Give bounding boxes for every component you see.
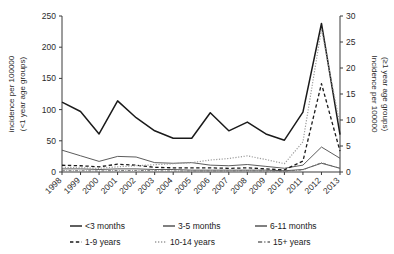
right-axis-tick-label: 30 bbox=[346, 11, 356, 21]
chart-figure: 050100150200250incidence per 100000(<1 y… bbox=[0, 0, 394, 254]
x-axis-tick-label: 2010 bbox=[265, 175, 286, 196]
legend-label: 1-9 years bbox=[85, 237, 120, 247]
right-axis-tick-label: 10 bbox=[346, 115, 356, 125]
series-line bbox=[62, 23, 340, 140]
left-axis-title: incidence per 100000 bbox=[7, 55, 16, 132]
legend-label: 15+ years bbox=[273, 237, 311, 247]
x-axis-tick-label: 2002 bbox=[117, 175, 138, 196]
series-line bbox=[62, 163, 340, 170]
left-axis-tick-label: 100 bbox=[42, 105, 56, 115]
legend-label: 10-14 years bbox=[170, 237, 215, 247]
x-axis-tick-label: 2012 bbox=[302, 175, 323, 196]
x-axis-tick-label: 2004 bbox=[154, 175, 175, 196]
legend-label: 6-11 months bbox=[270, 221, 317, 231]
x-axis-tick-label: 2009 bbox=[247, 175, 268, 196]
right-axis-tick-label: 0 bbox=[346, 167, 351, 177]
right-axis-tick-label: 15 bbox=[346, 89, 356, 99]
x-axis-tick-label: 2007 bbox=[210, 175, 231, 196]
chart-legend: <3 months3-5 months6-11 months1-9 years1… bbox=[70, 221, 317, 247]
left-axis-tick-label: 150 bbox=[42, 73, 56, 83]
left-axis-tick-label: 50 bbox=[47, 136, 57, 146]
right-axis-tick-label: 5 bbox=[346, 141, 351, 151]
right-axis-title: Incidence per 100000 bbox=[370, 56, 379, 134]
legend-label: 3-5 months bbox=[178, 221, 221, 231]
series-line bbox=[62, 29, 340, 168]
x-axis-tick-label: 2001 bbox=[99, 175, 120, 196]
x-axis-tick-label: 1999 bbox=[61, 175, 82, 196]
right-axis-tick-label: 25 bbox=[346, 37, 356, 47]
x-axis-tick-label: 2005 bbox=[173, 175, 194, 196]
legend-label: <3 months bbox=[85, 221, 125, 231]
incidence-line-chart: 050100150200250incidence per 100000(<1 y… bbox=[0, 0, 394, 254]
right-axis-tick-label: 20 bbox=[346, 63, 356, 73]
left-axis: 050100150200250incidence per 100000(<1 y… bbox=[7, 11, 62, 177]
left-axis-tick-label: 200 bbox=[42, 42, 56, 52]
x-axis-tick-label: 2011 bbox=[284, 175, 304, 195]
left-axis-tick-label: 250 bbox=[42, 11, 56, 21]
x-axis-tick-label: 2008 bbox=[228, 175, 249, 196]
right-axis: 051015202530Incidence per 100000(≥1 year… bbox=[340, 11, 390, 177]
x-axis-tick-label: 1998 bbox=[43, 175, 64, 196]
right-axis-subtitle: (≥1 year age groups) bbox=[381, 57, 390, 132]
series-line bbox=[62, 147, 340, 168]
x-axis-tick-label: 2003 bbox=[136, 175, 157, 196]
series-lines bbox=[62, 23, 340, 171]
left-axis-subtitle: (<1 year age groups) bbox=[18, 56, 27, 131]
x-axis-tick-label: 2013 bbox=[321, 175, 342, 196]
x-axis: 1998199920002001200220032004200520062007… bbox=[43, 172, 342, 196]
x-axis-tick-label: 2006 bbox=[191, 175, 212, 196]
x-axis-tick-label: 2000 bbox=[80, 175, 101, 196]
